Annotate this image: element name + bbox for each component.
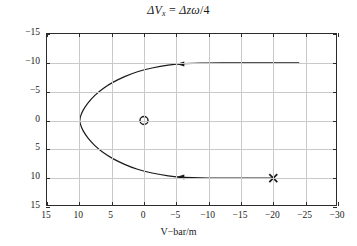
x-tick: [241, 33, 242, 37]
chart-title: ΔVx = Δzω/4: [0, 3, 357, 18]
y-gridline: [47, 63, 336, 64]
x-tick-label: −15: [225, 210, 255, 220]
y-tick-label: 0: [10, 114, 40, 124]
y-gridline: [47, 149, 336, 150]
x-gridline: [306, 34, 307, 205]
x-tick-label: 15: [31, 210, 61, 220]
y-gridline: [47, 121, 336, 122]
x-tick: [79, 33, 80, 37]
plot-area: [46, 33, 337, 206]
x-gridline: [144, 34, 145, 205]
y-tick: [46, 178, 50, 179]
x-gridline: [79, 34, 80, 205]
y-tick: [333, 121, 337, 122]
y-tick: [46, 121, 50, 122]
y-tick: [46, 34, 50, 35]
x-tick: [176, 202, 177, 206]
y-tick: [46, 207, 50, 208]
y-tick-label: 5: [10, 142, 40, 152]
x-axis-title: V−bar/m: [0, 226, 357, 237]
y-tick-label: 10: [10, 171, 40, 181]
x-tick: [241, 202, 242, 206]
x-tick: [306, 33, 307, 37]
x-tick: [338, 33, 339, 37]
title-rhs-omega: ω: [191, 3, 200, 17]
title-equals: =: [169, 3, 176, 17]
x-tick-label: −20: [257, 210, 287, 220]
x-tick: [209, 202, 210, 206]
x-tick-label: 10: [63, 210, 93, 220]
y-tick: [333, 207, 337, 208]
y-tick-label: −10: [10, 56, 40, 66]
x-tick: [306, 202, 307, 206]
x-tick-label: −5: [160, 210, 190, 220]
y-tick-label: 15: [10, 200, 40, 210]
y-tick: [333, 34, 337, 35]
x-tick: [47, 202, 48, 206]
x-gridline: [241, 34, 242, 205]
y-tick: [333, 178, 337, 179]
y-tick-label: −5: [10, 85, 40, 95]
x-tick-label: 0: [128, 210, 158, 220]
y-tick: [46, 92, 50, 93]
y-gridline: [47, 178, 336, 179]
x-tick-label: −25: [290, 210, 320, 220]
title-rhs-divisor: /4: [200, 3, 210, 17]
chart-figure: ΔVx = Δzω/4 R−bar/m V−bar/m 151050−5−10−…: [0, 0, 357, 246]
y-tick: [333, 149, 337, 150]
x-tick: [144, 202, 145, 206]
x-tick: [176, 33, 177, 37]
x-tick-label: 5: [96, 210, 126, 220]
x-tick: [112, 33, 113, 37]
x-gridline: [209, 34, 210, 205]
x-tick: [273, 202, 274, 206]
title-v-subscript: x: [162, 9, 166, 18]
x-tick: [144, 33, 145, 37]
x-gridline: [176, 34, 177, 205]
x-tick: [338, 202, 339, 206]
y-tick: [46, 63, 50, 64]
x-tick: [79, 202, 80, 206]
x-gridline: [273, 34, 274, 205]
x-tick: [112, 202, 113, 206]
y-tick-label: −15: [10, 27, 40, 37]
x-gridline: [112, 34, 113, 205]
y-gridline: [47, 92, 336, 93]
y-tick: [333, 92, 337, 93]
x-tick-label: −10: [193, 210, 223, 220]
y-tick: [333, 63, 337, 64]
title-delta: Δ: [147, 3, 154, 17]
x-tick: [273, 33, 274, 37]
x-tick: [209, 33, 210, 37]
title-v: V: [155, 3, 163, 17]
x-tick-label: −30: [322, 210, 352, 220]
y-tick: [46, 149, 50, 150]
